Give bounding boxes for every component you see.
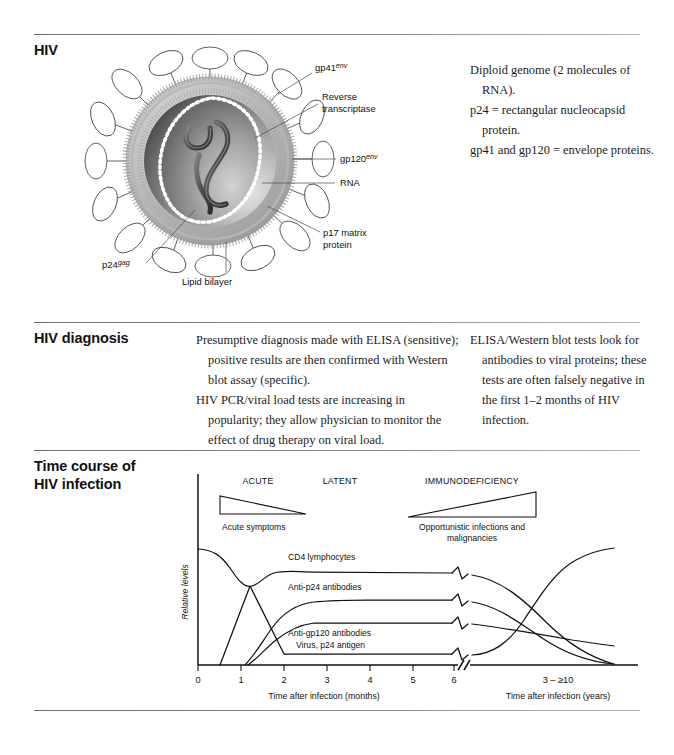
svg-text:3 – ≥10: 3 – ≥10 bbox=[543, 675, 574, 685]
svg-text:0: 0 bbox=[195, 675, 200, 685]
hiv-virion-figure: gp41env Reverse transcriptase gp120env R… bbox=[40, 42, 460, 317]
svg-text:2: 2 bbox=[281, 675, 286, 685]
diagnosis-para-1: Presumptive diagnosis made with ELISA (s… bbox=[196, 330, 461, 390]
hiv-note-3: gp41 and gp120 = envelope proteins. bbox=[470, 140, 655, 160]
series-label-anti-gp120: Anti-gp120 antibodies bbox=[288, 628, 371, 638]
time-course-heading-line1: Time course of bbox=[34, 458, 184, 476]
section-heading-time-course: Time course of HIV infection bbox=[34, 458, 184, 493]
series-label-virus-p24: Virus, p24 antigen bbox=[296, 640, 365, 650]
chart-xlabel-months: Time after infection (months) bbox=[268, 691, 380, 701]
curve-break-anti-gp120 bbox=[452, 617, 468, 629]
divider-top bbox=[34, 34, 640, 35]
curve-break-anti-p24 bbox=[452, 594, 468, 606]
chart-x-tick-labels: 0 1 2 3 4 5 6 3 – ≥10 bbox=[195, 675, 573, 685]
textbook-page: HIV Diploid genome (2 molecules of RNA).… bbox=[0, 0, 674, 755]
time-course-heading-line2: HIV infection bbox=[34, 476, 184, 494]
wedge-opportunistic bbox=[408, 492, 536, 517]
label-rna: RNA bbox=[340, 177, 361, 188]
wedge-label-opportunistic-1: Opportunistic infections and bbox=[419, 522, 525, 532]
curve-break-cd4 bbox=[452, 567, 468, 579]
svg-text:6: 6 bbox=[451, 675, 456, 685]
hiv-note-1: Diploid genome (2 molecules of RNA). bbox=[470, 60, 655, 100]
hiv-note-2: p24 = rectangular nucleocapsid protein. bbox=[470, 100, 655, 140]
svg-text:5: 5 bbox=[410, 675, 415, 685]
svg-text:1: 1 bbox=[238, 675, 243, 685]
svg-text:3: 3 bbox=[324, 675, 329, 685]
chart-ylabel: Relative levels bbox=[180, 564, 190, 620]
label-gp120: gp120env bbox=[340, 152, 378, 164]
phase-label-latent: LATENT bbox=[323, 476, 358, 486]
axis-break-mark-1 bbox=[458, 660, 464, 670]
phase-label-acute: ACUTE bbox=[242, 476, 273, 486]
label-gp41: gp41env bbox=[315, 61, 348, 73]
section-heading-hiv-diagnosis: HIV diagnosis bbox=[34, 330, 129, 348]
divider-bottom bbox=[34, 710, 640, 711]
diagnosis-column-1: Presumptive diagnosis made with ELISA (s… bbox=[196, 330, 461, 451]
diagnosis-note-1: ELISA/Western blot tests look for antibo… bbox=[470, 330, 650, 430]
wedge-label-opportunistic-2: malignancies bbox=[447, 533, 497, 543]
wedge-label-acute-symptoms: Acute symptoms bbox=[222, 522, 286, 532]
curve-anti-p24-right bbox=[472, 602, 614, 664]
label-p24: p24gag bbox=[102, 258, 130, 270]
label-reverse-transcriptase-1: Reverse bbox=[322, 91, 357, 102]
curve-cd4-lymphocytes-right bbox=[472, 575, 614, 664]
label-lipid-bilayer: Lipid bilayer bbox=[182, 276, 232, 287]
curve-break-virus bbox=[452, 648, 468, 660]
phase-label-immunodeficiency: IMMUNODEFICIENCY bbox=[425, 476, 519, 486]
diagnosis-column-2: ELISA/Western blot tests look for antibo… bbox=[470, 330, 650, 430]
series-label-cd4: CD4 lymphocytes bbox=[288, 552, 355, 562]
chart-x-ticks-months bbox=[198, 665, 454, 671]
wedge-acute-symptoms bbox=[220, 496, 306, 514]
svg-text:4: 4 bbox=[367, 675, 372, 685]
diagnosis-para-2: HIV PCR/viral load tests are increasing … bbox=[196, 390, 461, 450]
label-p17-2: protein bbox=[323, 239, 352, 250]
curve-anti-gp120-right bbox=[472, 624, 614, 646]
hiv-notes-column: Diploid genome (2 molecules of RNA). p24… bbox=[470, 60, 655, 160]
label-p17-1: p17 matrix bbox=[323, 227, 367, 238]
hiv-time-course-chart: 0 1 2 3 4 5 6 3 – ≥10 Time after infecti… bbox=[172, 472, 652, 704]
chart-xlabel-years: Time after infection (years) bbox=[506, 691, 610, 701]
label-reverse-transcriptase-2: transcriptase bbox=[322, 103, 376, 114]
axis-break-mark-2 bbox=[464, 660, 470, 670]
divider-middle-1 bbox=[34, 322, 640, 323]
series-label-anti-p24: Anti-p24 antibodies bbox=[288, 582, 362, 592]
